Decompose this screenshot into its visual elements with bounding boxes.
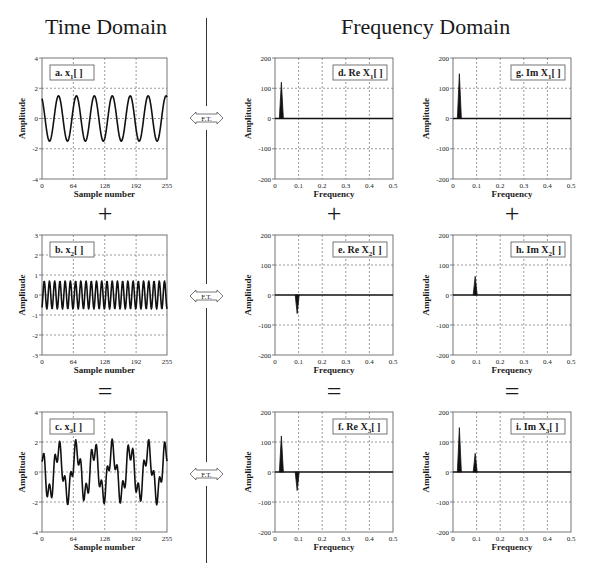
svg-text:F.T.: F.T. xyxy=(201,293,212,301)
x-tick-label: 0.1 xyxy=(472,182,481,190)
y-tick-label: -3 xyxy=(32,352,38,360)
y-tick-label: 0 xyxy=(35,115,39,123)
plot-label-a: a. x1[ ] xyxy=(50,65,94,81)
x-tick-label: 0.4 xyxy=(543,182,552,190)
x-tick-label: 0.5 xyxy=(567,535,576,543)
svg-text:F.T.: F.T. xyxy=(201,471,212,479)
spectral-peak xyxy=(457,428,461,472)
plot-f: -200-100010020000.10.20.30.40.5Frequency… xyxy=(243,409,398,553)
plot-b: -3-2-10123064128192255Sample numberAmpli… xyxy=(17,232,173,376)
y-tick-label: 0 xyxy=(446,292,450,300)
spectral-peak xyxy=(279,436,283,472)
y-axis-label: Amplitude xyxy=(17,98,27,139)
y-axis-label: Amplitude xyxy=(243,98,253,139)
y-axis-label: Amplitude xyxy=(243,274,253,315)
y-axis-label: Amplitude xyxy=(421,98,431,139)
x-axis-label: Sample number xyxy=(74,189,135,199)
y-tick-label: 100 xyxy=(439,262,450,270)
y-tick-label: 2 xyxy=(35,252,39,260)
plot-c: -4-2024064128192255Sample numberAmplitud… xyxy=(17,409,173,553)
x-tick-label: 0.4 xyxy=(543,535,552,543)
plot-a: -4-2024064128192255Sample numberAmplitud… xyxy=(17,55,173,200)
x-tick-label: 255 xyxy=(162,535,173,543)
y-tick-label: -100 xyxy=(258,499,271,507)
y-tick-label: 1 xyxy=(35,272,39,280)
svg-text:F.T.: F.T. xyxy=(201,115,212,123)
x-axis-label: Frequency xyxy=(492,365,533,375)
y-tick-label: 100 xyxy=(261,85,272,93)
x-tick-label: 0 xyxy=(273,535,277,543)
x-tick-label: 255 xyxy=(162,182,173,190)
y-tick-label: -200 xyxy=(258,176,271,184)
y-tick-label: 100 xyxy=(261,439,272,447)
y-tick-label: 4 xyxy=(35,55,39,63)
x-tick-label: 0.4 xyxy=(365,182,374,190)
x-tick-label: 0.5 xyxy=(389,182,398,190)
fourier-transform-arrow: F.T. xyxy=(190,468,223,480)
y-tick-label: 200 xyxy=(439,232,450,240)
x-axis-label: Frequency xyxy=(492,542,533,552)
x-axis-label: Frequency xyxy=(314,365,355,375)
y-tick-label: 0 xyxy=(268,292,272,300)
x-tick-label: 0.1 xyxy=(294,182,303,190)
x-tick-label: 0.5 xyxy=(567,358,576,366)
spectral-peak xyxy=(295,295,299,314)
y-tick-label: -100 xyxy=(258,145,271,153)
x-tick-label: 0.5 xyxy=(389,535,398,543)
plot-g: -200-100010020000.10.20.30.40.5Frequency… xyxy=(421,55,576,200)
y-tick-label: 100 xyxy=(261,262,272,270)
y-tick-label: 0 xyxy=(446,115,450,123)
x-axis-label: Frequency xyxy=(314,189,355,199)
plot-label-f: f. Re X3[ ] xyxy=(333,419,387,435)
x-tick-label: 0 xyxy=(451,358,455,366)
y-tick-label: -200 xyxy=(436,529,449,537)
plot-d: -200-100010020000.10.20.30.40.5Frequency… xyxy=(243,55,398,200)
y-tick-label: 0 xyxy=(268,469,272,477)
plot-label-b: b. x2[ ] xyxy=(50,242,94,258)
plot-i: -200-100010020000.10.20.30.40.5Frequency… xyxy=(421,409,576,553)
x-tick-label: 0.4 xyxy=(543,358,552,366)
y-tick-label: -100 xyxy=(258,322,271,330)
x-tick-label: 0.1 xyxy=(472,358,481,366)
y-axis-label: Amplitude xyxy=(17,451,27,492)
y-tick-label: 0 xyxy=(446,469,450,477)
y-axis-label: Amplitude xyxy=(421,274,431,315)
x-tick-label: 0 xyxy=(451,182,455,190)
x-tick-label: 0 xyxy=(273,182,277,190)
x-tick-label: 0 xyxy=(451,535,455,543)
x-tick-label: 0.4 xyxy=(365,358,374,366)
y-tick-label: -100 xyxy=(436,499,449,507)
y-tick-label: 2 xyxy=(35,85,39,93)
y-tick-label: 0 xyxy=(35,292,39,300)
x-tick-label: 0.1 xyxy=(294,358,303,366)
fourier-transform-arrow: F.T. xyxy=(190,290,223,302)
x-tick-label: 0.1 xyxy=(472,535,481,543)
y-tick-label: 0 xyxy=(35,469,39,477)
x-tick-label: 0.5 xyxy=(567,182,576,190)
x-axis-label: Sample number xyxy=(74,365,135,375)
y-tick-label: -200 xyxy=(258,352,271,360)
y-tick-label: 3 xyxy=(35,232,39,240)
y-tick-label: -4 xyxy=(32,176,38,184)
y-tick-label: 200 xyxy=(261,409,272,417)
y-axis-label: Amplitude xyxy=(17,274,27,315)
plot-h: -200-100010020000.10.20.30.40.5Frequency… xyxy=(421,232,576,376)
x-axis-label: Frequency xyxy=(492,189,533,199)
y-tick-label: 0 xyxy=(268,115,272,123)
plot-label-e: e. Re X2[ ] xyxy=(333,242,387,258)
x-tick-label: 0.5 xyxy=(389,358,398,366)
plots-layer: -4-2024064128192255Sample numberAmplitud… xyxy=(17,55,576,553)
plot-label-i: i. Im X3[ ] xyxy=(511,419,565,435)
plot-e: -200-100010020000.10.20.30.40.5Frequency… xyxy=(243,232,398,376)
x-tick-label: 0 xyxy=(40,535,44,543)
domain-divider: F.T.F.T.F.T. xyxy=(190,18,223,563)
y-tick-label: 100 xyxy=(439,439,450,447)
y-tick-label: 2 xyxy=(35,439,39,447)
y-tick-label: 100 xyxy=(439,85,450,93)
x-axis-label: Frequency xyxy=(314,542,355,552)
y-tick-label: 200 xyxy=(439,55,450,63)
y-tick-label: -4 xyxy=(32,529,38,537)
y-tick-label: 4 xyxy=(35,409,39,417)
spectral-peak xyxy=(295,472,299,491)
x-tick-label: 0 xyxy=(40,358,44,366)
